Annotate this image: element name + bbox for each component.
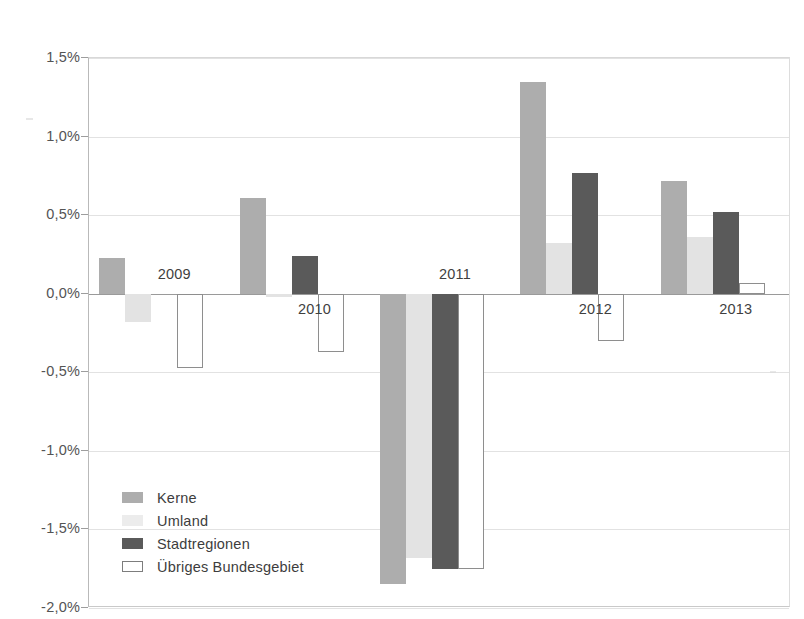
y-axis-tick-label: 0,0% [46,285,80,301]
gridline [89,608,789,609]
legend-item: Übriges Bundesgebiet [122,558,304,575]
y-axis: 1,5%1,0%0,5%0,0%-0,5%-1,0%-1,5%-2,0% [0,0,80,619]
bar [177,294,203,368]
bar [572,173,598,294]
scan-artifact [770,371,776,373]
bar [380,294,406,585]
y-axis-tick-label: 0,5% [46,206,80,222]
y-axis-tick-label: -1,5% [41,520,80,536]
bar [240,198,266,294]
bar [713,212,739,294]
category-label-2011: 2011 [439,266,471,282]
legend-swatch-icon [122,561,143,572]
bar [661,181,687,294]
legend-item: Stadtregionen [122,535,304,552]
bar [687,237,713,294]
bar [739,283,765,294]
y-axis-tick-mark [81,371,88,372]
gridline [89,137,789,138]
legend-swatch-icon [122,515,143,526]
y-axis-tick-label: -2,0% [41,599,80,615]
y-axis-tick-label: -1,0% [41,442,80,458]
gridline [89,58,789,59]
bar [99,258,125,294]
y-axis-tick-mark [81,528,88,529]
bar [292,256,318,294]
legend-swatch-icon [122,538,143,549]
y-axis-tick-mark [81,293,88,294]
y-axis-tick-mark [81,57,88,58]
category-label-2010: 2010 [298,301,331,317]
y-axis-tick-label: 1,0% [46,128,80,144]
scan-artifact [26,118,33,120]
legend-swatch-icon [122,492,143,503]
y-axis-tick-label: 1,5% [46,49,80,65]
legend-label: Übriges Bundesgebiet [157,559,304,575]
legend-label: Umland [157,513,208,529]
bar [432,294,458,569]
legend: KerneUmlandStadtregionenÜbriges Bundesge… [122,489,304,575]
bar [546,243,572,293]
category-label-2013: 2013 [719,301,752,317]
y-axis-tick-label: -0,5% [41,363,80,379]
y-axis-tick-mark [81,607,88,608]
y-axis-tick-mark [81,214,88,215]
bar [520,82,546,294]
category-label-2009: 2009 [158,266,191,282]
y-axis-tick-mark [81,450,88,451]
y-axis-tick-mark [81,136,88,137]
legend-item: Umland [122,512,304,529]
bar [266,294,292,297]
bar [406,294,432,558]
legend-label: Stadtregionen [157,536,250,552]
category-label-2012: 2012 [579,301,612,317]
bar [125,294,151,322]
bar [458,294,484,569]
legend-item: Kerne [122,489,304,506]
bar-chart: 1,5%1,0%0,5%0,0%-0,5%-1,0%-1,5%-2,0% 200… [0,0,804,619]
legend-label: Kerne [157,490,197,506]
